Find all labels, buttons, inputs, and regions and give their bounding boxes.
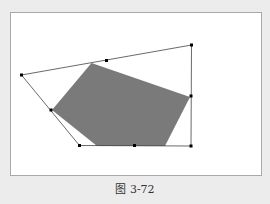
control-point xyxy=(20,74,23,77)
figure-caption: 图 3-72 xyxy=(0,180,270,196)
control-point xyxy=(190,44,193,47)
gray-rectangle-shape xyxy=(52,63,190,146)
control-point xyxy=(50,109,53,112)
control-point xyxy=(78,144,81,147)
control-point xyxy=(105,59,108,62)
control-point xyxy=(133,144,136,147)
control-point xyxy=(190,145,193,148)
diagram-canvas xyxy=(0,0,270,204)
control-point xyxy=(190,95,193,98)
